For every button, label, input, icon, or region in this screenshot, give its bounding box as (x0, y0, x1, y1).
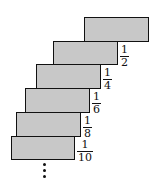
numerator: 1 (81, 140, 90, 150)
denominator: 6 (92, 105, 101, 115)
denominator: 2 (120, 58, 129, 68)
block-2 (53, 41, 118, 65)
block-5 (16, 112, 81, 137)
numerator: 1 (83, 116, 92, 126)
offset-label-eighth: 1 8 (83, 116, 92, 139)
block-6 (11, 136, 75, 160)
dot (43, 163, 46, 166)
block-1 (84, 17, 149, 42)
dot (43, 175, 46, 178)
numerator: 1 (103, 68, 112, 78)
offset-label-sixth: 1 6 (92, 92, 101, 115)
numerator: 1 (120, 45, 129, 55)
denominator: 10 (77, 153, 93, 163)
dot (43, 169, 46, 172)
block-4 (25, 88, 90, 113)
continuation-dots-icon (43, 163, 47, 181)
block-3 (36, 64, 101, 89)
offset-label-tenth: 1 10 (77, 140, 93, 163)
denominator: 4 (103, 81, 112, 91)
offset-label-half: 1 2 (120, 45, 129, 68)
offset-label-quarter: 1 4 (103, 68, 112, 91)
numerator: 1 (92, 92, 101, 102)
